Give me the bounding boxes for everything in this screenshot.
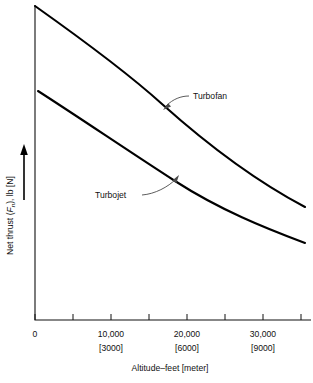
x-tick-label-meter-9000: [9000] [251,343,275,353]
x-tick-label-30000: 30,000 [250,329,277,339]
x-tick-label-20000: 20,000 [174,329,201,339]
svg-text:Net thrust (Fn), lb [N]: Net thrust (Fn), lb [N] [5,176,16,255]
turbofan-annotation-leader [163,96,189,110]
series-label-turbofan: Turbofan [193,91,227,101]
series-label-turbojet: Turbojet [95,190,127,200]
series-line-turbojet [38,91,305,243]
y-axis-title: Net thrust (Fn), lb [N] [5,176,16,255]
x-axis-ticks [35,314,301,320]
chart-canvas: 0 10,000 20,000 30,000 [3000] [6000] [90… [0,0,313,383]
chart-figure: 0 10,000 20,000 30,000 [3000] [6000] [90… [0,0,313,383]
increasing-direction-arrow [20,144,28,200]
y-axis-title-post: ), lb [N] [5,176,15,204]
axis-lines [35,5,311,320]
x-tick-label-0: 0 [33,329,38,339]
y-axis-title-pre: Net thrust ( [5,212,15,255]
x-axis-title: Altitude–feet [meter] [132,363,209,373]
x-tick-label-10000: 10,000 [98,329,125,339]
turbojet-annotation-leader [142,175,179,195]
x-tick-label-meter-6000: [6000] [175,343,199,353]
x-tick-label-meter-3000: [3000] [99,343,123,353]
